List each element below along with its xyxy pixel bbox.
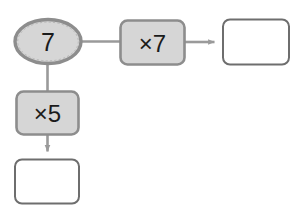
node-op-multiply-seven[interactable]: ×7 bbox=[121, 21, 185, 65]
node-result-right[interactable] bbox=[223, 20, 289, 65]
result-down-shape bbox=[15, 160, 79, 204]
node-op-multiply-five[interactable]: ×5 bbox=[17, 92, 79, 135]
diagram-canvas: 7 ×7 ×5 bbox=[0, 0, 299, 213]
function-machine-diagram: 7 ×7 ×5 bbox=[0, 0, 299, 213]
op-multiply-five-label: ×5 bbox=[34, 100, 61, 127]
result-right-shape bbox=[223, 20, 289, 65]
start-oval-label: 7 bbox=[41, 28, 55, 56]
node-start-oval[interactable]: 7 bbox=[15, 20, 81, 64]
node-result-down[interactable] bbox=[15, 160, 79, 204]
op-multiply-seven-label: ×7 bbox=[139, 30, 166, 57]
